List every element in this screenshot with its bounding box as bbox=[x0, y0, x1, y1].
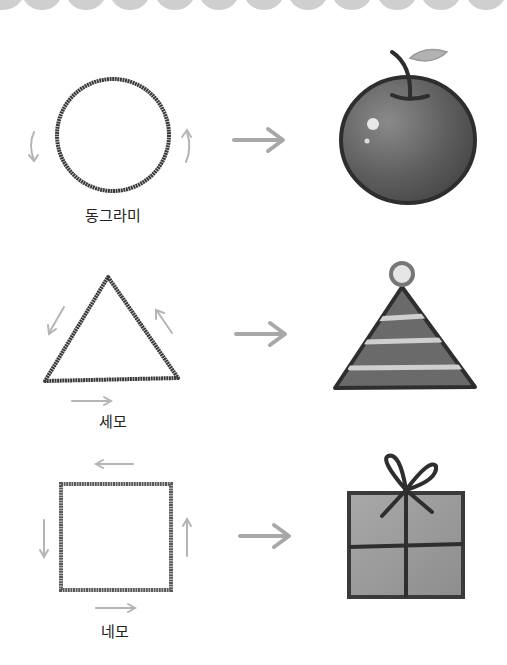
guide-arrow-up-left bbox=[156, 310, 172, 333]
guide-arrow-right bbox=[72, 397, 111, 405]
shape-label-triangle: 세모 bbox=[53, 410, 173, 431]
guide-arrow-right bbox=[96, 604, 135, 612]
counterclockwise-guide-arrow-right bbox=[182, 130, 191, 162]
guide-arrow-down-left bbox=[48, 307, 64, 334]
right-arrow-icon bbox=[230, 126, 290, 156]
party-hat-illustration bbox=[320, 252, 490, 402]
circle-shape bbox=[10, 60, 210, 220]
right-arrow-icon bbox=[232, 320, 292, 350]
shape-label-circle: 동그라미 bbox=[53, 204, 173, 225]
shape-label-square: 네모 bbox=[55, 620, 175, 641]
triangle-shape bbox=[20, 265, 220, 425]
apple-illustration bbox=[320, 40, 490, 210]
gift-box-illustration bbox=[320, 440, 490, 610]
counterclockwise-guide-arrow-left bbox=[29, 132, 38, 161]
scalloped-border bbox=[0, 0, 507, 12]
right-arrow-icon bbox=[236, 522, 296, 552]
guide-arrow-down bbox=[40, 520, 48, 557]
guide-arrow-left bbox=[96, 460, 133, 468]
guide-arrow-up bbox=[183, 519, 191, 556]
